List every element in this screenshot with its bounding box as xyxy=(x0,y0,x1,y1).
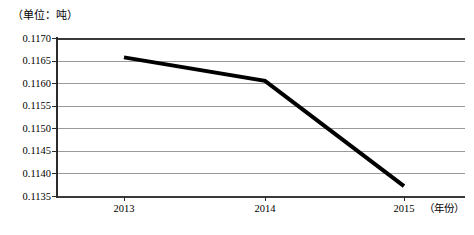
y-tick-label-4: 0.1150 xyxy=(5,123,51,134)
plot-area xyxy=(57,38,465,196)
y-tick-mark-1 xyxy=(52,61,57,62)
x-tick-mark-2013 xyxy=(124,196,125,201)
x-tick-label-2013: 2013 xyxy=(114,203,135,215)
y-tick-label-3: 0.1155 xyxy=(5,100,51,111)
x-tick-mark-2014 xyxy=(265,196,266,201)
y-tick-label-7: 0.1135 xyxy=(5,191,51,202)
y-tick-label-2: 0.1160 xyxy=(5,78,51,89)
y-tick-label-5: 0.1145 xyxy=(5,145,51,156)
y-tick-mark-6 xyxy=(52,173,57,174)
y-tick-mark-4 xyxy=(52,128,57,129)
gridline-5 xyxy=(57,151,465,152)
gridline-6 xyxy=(57,173,465,174)
y-tick-label-6: 0.1140 xyxy=(5,168,51,179)
y-tick-label-0: 0.1170 xyxy=(5,33,51,44)
gridline-3 xyxy=(57,106,465,107)
chart-figure: （单位：吨） 0.1170 0.1165 0.1160 0.1155 0.115… xyxy=(0,0,474,235)
x-tick-mark-2015 xyxy=(404,196,405,201)
gridline-4 xyxy=(57,128,465,129)
x-axis-unit-label: （年份） xyxy=(424,203,464,215)
gridline-0 xyxy=(57,38,465,40)
y-tick-label-1: 0.1165 xyxy=(5,55,51,66)
y-tick-mark-3 xyxy=(52,106,57,107)
y-tick-mark-0 xyxy=(52,38,57,39)
gridline-1 xyxy=(57,61,465,62)
gridline-2 xyxy=(57,83,465,84)
x-tick-label-2015: 2015 xyxy=(394,203,415,215)
y-tick-mark-7 xyxy=(52,196,57,197)
y-tick-mark-5 xyxy=(52,151,57,152)
x-tick-label-2014: 2014 xyxy=(255,203,276,215)
y-axis-labels: 0.1170 0.1165 0.1160 0.1155 0.1150 0.114… xyxy=(0,0,51,235)
y-tick-mark-2 xyxy=(52,83,57,84)
